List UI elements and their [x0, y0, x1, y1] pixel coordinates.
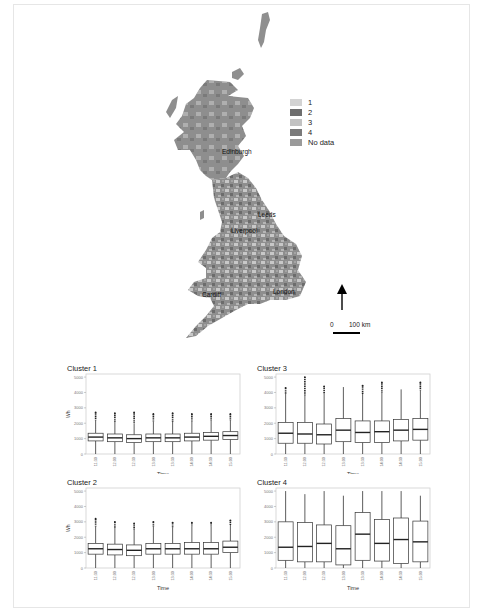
- legend-item-1: 1: [290, 97, 334, 107]
- city-label-london: London: [273, 288, 295, 295]
- legend-label: 2: [308, 108, 312, 117]
- y-tick-label: 3000: [74, 405, 84, 410]
- x-tick-label: 14:00: [380, 571, 384, 581]
- x-tick-label: 15:00: [419, 457, 423, 467]
- x-tick-label: 11:30: [284, 571, 288, 580]
- legend-swatch: [290, 99, 302, 106]
- boxplot-cluster-1: Cluster 1010002000300040005000Wh11:3012:…: [58, 362, 244, 474]
- y-tick-label: 3000: [264, 519, 274, 524]
- boxplot-cluster-2: Cluster 2010002000300040005000Wh11:3012:…: [58, 476, 244, 606]
- scale-bar-line: [333, 332, 360, 334]
- legend-swatch: [290, 109, 302, 116]
- y-tick-label: 5000: [74, 375, 84, 380]
- x-tick-label: 12:00: [303, 571, 307, 581]
- legend-item-4: 4: [290, 127, 334, 137]
- y-tick-label: 1000: [74, 436, 84, 441]
- x-tick-label: 14:00: [380, 457, 384, 467]
- legend-label: 4: [308, 128, 312, 137]
- x-tick-label: 13:30: [171, 571, 175, 581]
- y-tick-label: 5000: [264, 489, 274, 494]
- y-tick-label: 2000: [264, 421, 274, 426]
- y-tick-label: 1000: [264, 550, 274, 555]
- x-tick-label: 12:30: [132, 457, 136, 467]
- legend-label: 1: [308, 98, 312, 107]
- y-tick-label: 2000: [74, 535, 84, 540]
- x-tick-label: 14:00: [190, 457, 194, 467]
- x-tick-label: 12:00: [113, 457, 117, 467]
- scale-distance-label: 100 km: [349, 321, 370, 328]
- scale-zero-label: 0: [330, 321, 334, 328]
- y-tick-label: 5000: [264, 375, 274, 380]
- y-tick-label: 4000: [74, 504, 84, 509]
- x-tick-label: 13:00: [342, 457, 346, 467]
- y-tick-label: 0: [81, 452, 84, 457]
- chart-title: Cluster 4: [257, 478, 287, 487]
- y-axis-label: Wh: [65, 524, 71, 532]
- x-axis-label: Time: [347, 471, 359, 474]
- legend-item-no-data: No data: [290, 137, 334, 147]
- y-tick-label: 4000: [264, 390, 274, 395]
- x-tick-label: 14:30: [209, 571, 213, 581]
- plot-area: [86, 488, 240, 568]
- legend-swatch: [290, 139, 302, 146]
- chart-title: Cluster 1: [67, 364, 97, 373]
- legend-swatch: [290, 129, 302, 136]
- shetland-region: [258, 12, 270, 48]
- x-tick-label: 13:30: [171, 457, 175, 467]
- x-axis-label: Time: [157, 585, 169, 591]
- legend-swatch: [290, 119, 302, 126]
- boxplot-cluster-4: Cluster 401000200030004000500011:3012:00…: [248, 476, 434, 606]
- x-tick-label: 14:30: [399, 571, 403, 581]
- y-tick-label: 0: [81, 566, 84, 571]
- legend-item-2: 2: [290, 107, 334, 117]
- chart-title: Cluster 2: [67, 478, 97, 487]
- x-tick-label: 13:00: [342, 571, 346, 581]
- legend-label: No data: [308, 138, 334, 147]
- x-axis-label: Time: [347, 585, 359, 591]
- x-tick-label: 13:30: [361, 571, 365, 581]
- x-tick-label: 14:30: [399, 457, 403, 467]
- y-tick-label: 5000: [74, 489, 84, 494]
- x-tick-label: 11:30: [284, 457, 288, 466]
- north-arrow-icon: [336, 284, 348, 310]
- x-tick-label: 12:30: [322, 457, 326, 467]
- x-tick-label: 13:00: [152, 457, 156, 467]
- x-tick-label: 12:00: [303, 457, 307, 467]
- legend-label: 3: [308, 118, 312, 127]
- x-tick-label: 15:00: [229, 571, 233, 581]
- x-tick-label: 12:00: [113, 571, 117, 581]
- x-tick-label: 11:30: [94, 571, 98, 580]
- y-tick-label: 0: [271, 452, 274, 457]
- x-tick-label: 11:30: [94, 457, 98, 466]
- y-tick-label: 4000: [74, 390, 84, 395]
- city-label-edinburgh: Edinburgh: [222, 148, 252, 155]
- city-label-leeds: Leeds: [258, 211, 276, 218]
- y-tick-label: 1000: [264, 436, 274, 441]
- city-label-cardiff: Cardiff: [202, 291, 221, 298]
- orkney-region: [232, 68, 244, 80]
- x-tick-label: 15:00: [229, 457, 233, 467]
- y-tick-label: 1000: [74, 550, 84, 555]
- isle-of-man-region: [200, 210, 204, 220]
- x-axis-label: Time: [157, 471, 169, 474]
- legend-item-3: 3: [290, 117, 334, 127]
- england-wales-region: [186, 172, 306, 338]
- y-tick-label: 3000: [264, 405, 274, 410]
- y-tick-label: 2000: [264, 535, 274, 540]
- y-tick-label: 0: [271, 566, 274, 571]
- boxplot-cluster-3: Cluster 301000200030004000500011:3012:00…: [248, 362, 434, 474]
- y-tick-label: 4000: [264, 504, 274, 509]
- map-legend: 1 2 3 4 No data: [290, 97, 334, 147]
- x-tick-label: 12:30: [132, 571, 136, 581]
- y-tick-label: 2000: [74, 421, 84, 426]
- x-tick-label: 13:30: [361, 457, 365, 467]
- x-tick-label: 15:00: [419, 571, 423, 581]
- x-tick-label: 12:30: [322, 571, 326, 581]
- x-tick-label: 13:00: [152, 571, 156, 581]
- city-label-liverpool: Liverpool: [231, 227, 257, 234]
- y-axis-label: Wh: [65, 410, 71, 418]
- great-britain-cluster-map: [0, 0, 483, 360]
- western-isles-region: [166, 96, 178, 118]
- chart-title: Cluster 3: [257, 364, 287, 373]
- x-tick-label: 14:30: [209, 457, 213, 467]
